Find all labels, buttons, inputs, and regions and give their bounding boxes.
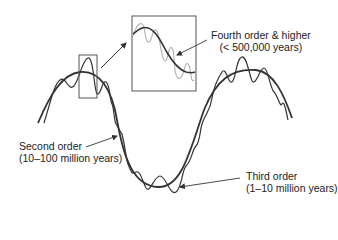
fourth-order-period: (< 500,000 years) [211,41,311,53]
fourth-order-title: Fourth order & higher [211,29,311,41]
fourth-order-label: Fourth order & higher (< 500,000 years) [211,29,311,53]
third-order-title: Third order [246,170,338,182]
zoom-arrow [101,43,126,68]
third-order-label: Third order (1–10 million years) [246,170,338,194]
third-order-leader [180,178,240,187]
second-order-title: Second order [19,140,122,152]
second-order-label: Second order (10–100 million years) [19,140,122,164]
third-order-period: (1–10 million years) [246,182,338,194]
second-order-period: (10–100 million years) [19,152,122,164]
